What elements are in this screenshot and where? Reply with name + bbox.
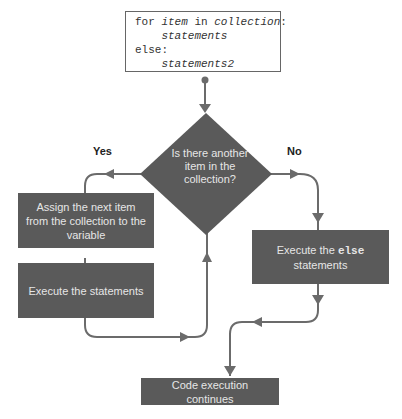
- code-snippet: for item in collection: statements else:…: [125, 11, 281, 72]
- decision-text: Is there another item in the collection?: [165, 147, 255, 186]
- yes-label: Yes: [93, 145, 112, 157]
- execute-statements-box: Execute the statements: [18, 263, 154, 318]
- else-line-1: Execute the else: [277, 243, 365, 258]
- code-continues-box: Code execution continues: [141, 378, 279, 405]
- code-line-2: statements: [135, 29, 280, 43]
- code-line-1: for item in collection:: [135, 15, 280, 29]
- no-label: No: [287, 145, 302, 157]
- execute-else-box: Execute the else statements: [252, 230, 389, 284]
- assign-next-item-box: Assign the next item from the collection…: [18, 193, 154, 248]
- code-line-3: else:: [135, 43, 280, 57]
- else-line-2: statements: [294, 258, 348, 272]
- code-line-4: statements2: [135, 57, 280, 71]
